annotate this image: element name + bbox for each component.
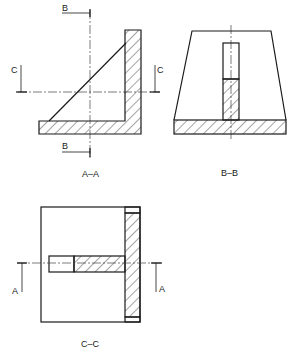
rib-diagonal bbox=[49, 43, 126, 121]
view-a-a: B B C C A–A bbox=[11, 3, 164, 179]
b-bottom-label: B bbox=[62, 141, 68, 151]
caption-c-c: C–C bbox=[81, 339, 100, 349]
a-left-label: A bbox=[12, 286, 18, 296]
rib-plain bbox=[49, 256, 74, 272]
caption-b-b: B–B bbox=[221, 168, 238, 178]
caption-a-a: A–A bbox=[82, 169, 99, 179]
c-left-label: C bbox=[11, 65, 18, 75]
rib-hatched-cc bbox=[74, 256, 125, 272]
wall-hatched bbox=[125, 213, 140, 317]
b-top-label: B bbox=[62, 3, 68, 13]
base-hatched bbox=[174, 120, 286, 134]
view-b-b: B–B bbox=[174, 25, 286, 178]
section-drawing: B B C C A–A B–B bbox=[0, 0, 287, 352]
c-right-label: C bbox=[157, 65, 164, 75]
a-right-label: A bbox=[159, 284, 165, 294]
view-c-c: A A C–C bbox=[12, 207, 165, 349]
rib-hatched bbox=[223, 79, 239, 120]
wall-bottom-cap bbox=[125, 317, 140, 322]
wall-top-cap bbox=[125, 207, 140, 213]
